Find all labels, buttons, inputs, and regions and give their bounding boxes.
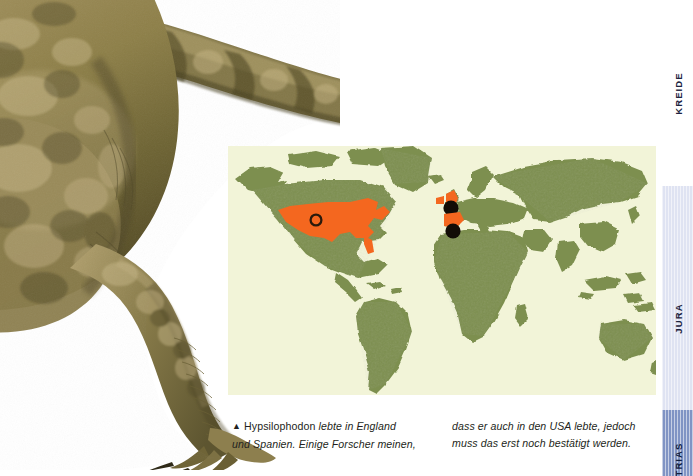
book-page: ▲Hypsilophodon lebte in England und Span… xyxy=(0,0,693,476)
caption-line-3: dass er auch in den USA lebte, jedoch xyxy=(452,418,648,435)
figure-caption: ▲Hypsilophodon lebte in England und Span… xyxy=(232,418,656,453)
period-label-kreide: KREIDE xyxy=(672,72,683,115)
species-name: Hypsilophodon xyxy=(244,420,315,432)
period-tab-trias[interactable]: TRIAS xyxy=(662,410,693,476)
geologic-period-tabs: KREIDE JURA TRIAS xyxy=(662,0,693,476)
world-distribution-map xyxy=(228,146,656,395)
triangle-marker-icon: ▲ xyxy=(232,421,241,431)
caption-column-right: dass er auch in den USA lebte, jedoch mu… xyxy=(452,418,648,453)
caption-text-1: lebte in England xyxy=(318,420,396,432)
caption-line-1: ▲Hypsilophodon lebte in England xyxy=(232,418,428,436)
caption-line-4: muss das erst noch bestätigt werden. xyxy=(452,435,648,452)
map-graphic xyxy=(228,146,656,395)
caption-column-left: ▲Hypsilophodon lebte in England und Span… xyxy=(232,418,428,453)
period-tab-kreide[interactable]: KREIDE xyxy=(662,0,693,186)
caption-line-2: und Spanien. Einige Forscher meinen, xyxy=(232,436,428,453)
period-tab-jura[interactable]: JURA xyxy=(662,186,693,410)
period-label-jura: JURA xyxy=(672,303,683,333)
spain-marker xyxy=(445,223,460,238)
period-label-trias: TRIAS xyxy=(672,443,683,476)
stripe-texture xyxy=(662,186,693,410)
